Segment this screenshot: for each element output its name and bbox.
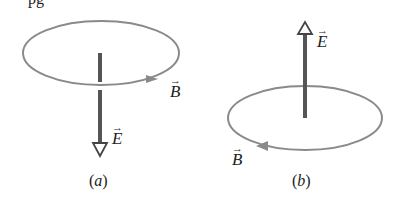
field-diagram [0, 0, 395, 209]
b-vector-label-b: → B [232, 151, 242, 168]
vector-arrow-icon: → [170, 75, 181, 86]
b-vector-label-a: → B [170, 83, 180, 100]
panel-a [23, 21, 179, 156]
panel-b [228, 22, 382, 151]
e-vector-label-b: → E [317, 33, 327, 50]
caption-b: (b) [292, 172, 311, 190]
vector-arrow-icon: → [317, 25, 328, 36]
vector-arrow-icon: → [112, 122, 123, 133]
e-vector-label-a: → E [112, 130, 122, 147]
e-arrowhead-a [93, 143, 107, 156]
caption-close-a: ) [102, 172, 107, 189]
caption-close-b: ) [305, 172, 310, 189]
vector-arrow-icon: → [232, 143, 243, 154]
e-arrowhead-b [298, 22, 312, 34]
caption-a: (a) [89, 172, 108, 190]
